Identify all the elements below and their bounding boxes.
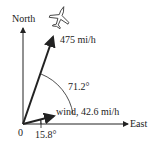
plane-vector xyxy=(23,37,53,124)
wind-label: wind, 42.6 mi/h xyxy=(56,107,119,117)
north-label: North xyxy=(12,14,35,24)
wind-vector xyxy=(23,116,54,124)
airplane-icon xyxy=(47,3,73,31)
angle-15-label: 15.8° xyxy=(35,130,57,140)
east-label: East xyxy=(130,119,147,129)
origin-label: 0 xyxy=(18,128,23,138)
angle-71-label: 71.2° xyxy=(68,82,90,92)
plane-speed-label: 475 mi/h xyxy=(60,35,96,45)
